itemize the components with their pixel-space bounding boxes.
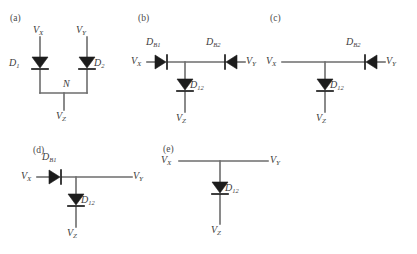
circuit-figure: (a) VX VY VZ N D1 D2 (b) VX bbox=[0, 0, 417, 254]
panel-a-diode-d2-triangle bbox=[79, 57, 95, 68]
panel-d: (d) VX VY VZ DB1 D12 bbox=[20, 132, 165, 254]
panel-d-diode-d12-triangle bbox=[68, 194, 84, 205]
panel-c-diode-d12-triangle bbox=[317, 79, 333, 90]
panel-b-diode-db1-triangle bbox=[155, 55, 166, 69]
panel-c: (c) VX VY VZ DB2 D12 bbox=[265, 0, 417, 130]
panel-a-diode-d1-triangle bbox=[32, 57, 48, 68]
panel-d-diode-db1-triangle bbox=[49, 170, 60, 184]
panel-c-wires bbox=[265, 0, 417, 130]
panel-a: (a) VX VY VZ N D1 D2 bbox=[0, 0, 140, 130]
panel-b: (b) VX VY VZ DB1 DB2 D12 bbox=[130, 0, 275, 130]
panel-e-wires bbox=[155, 132, 305, 254]
panel-b-diode-db2-triangle bbox=[226, 55, 237, 69]
panel-b-wires bbox=[130, 0, 275, 130]
panel-e: (e) VX VY VZ D12 bbox=[155, 132, 305, 254]
panel-c-diode-db2-triangle bbox=[366, 55, 377, 69]
panel-a-wires bbox=[0, 0, 140, 130]
panel-e-diode-d12-triangle bbox=[212, 182, 228, 193]
panel-b-diode-d12-triangle bbox=[177, 79, 193, 90]
panel-d-wires bbox=[20, 132, 165, 254]
